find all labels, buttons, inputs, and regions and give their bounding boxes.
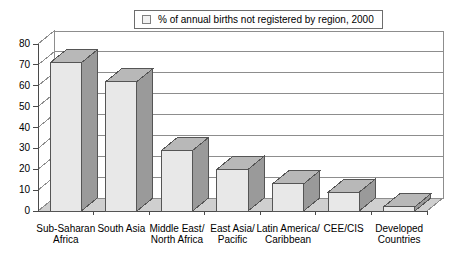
y-axis-tick-label: 40 [4, 123, 30, 133]
x-axis-category-label: Developed Countries [360, 223, 438, 245]
y-axis-tick-label: 30 [4, 143, 30, 153]
bar-chart-plot [0, 0, 468, 257]
chart-container: % of annual births not registered by reg… [0, 0, 468, 257]
y-axis-tick-label: 0 [4, 206, 30, 216]
y-axis-tick-label: 80 [4, 39, 30, 49]
y-axis-tick-label: 50 [4, 102, 30, 112]
y-axis-tick-label: 20 [4, 164, 30, 174]
y-axis-tick-label: 60 [4, 81, 30, 91]
y-axis-tick-label: 10 [4, 185, 30, 195]
y-axis-tick-label: 70 [4, 60, 30, 70]
